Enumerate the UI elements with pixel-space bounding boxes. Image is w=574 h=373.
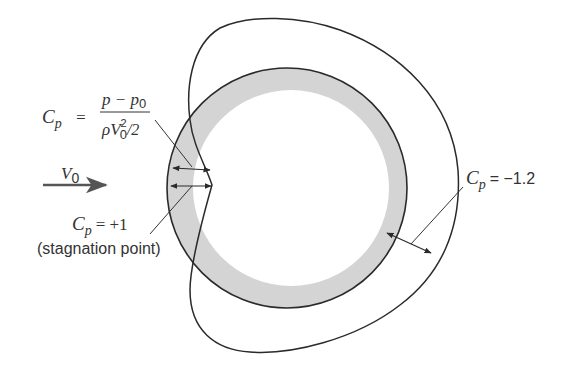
stagnation-value: = +1: [96, 215, 128, 234]
svg-text:V0: V0: [61, 164, 79, 186]
stagnation-label: Cp= +1 (stagnation point): [37, 213, 161, 257]
stagnation-lhs: C: [72, 213, 85, 234]
formula-denominator-tail: /2: [126, 121, 139, 138]
suction-value: = −1.2: [490, 170, 535, 187]
cp-formula: Cp = p − p0 ρV20/2: [42, 90, 150, 142]
stagnation-lhs-sub: p: [84, 223, 92, 238]
formula-denominator-sub: 0: [120, 127, 127, 142]
formula-numerator-sub: 0: [139, 96, 146, 111]
svg-text:ρV20/2: ρV20/2: [101, 117, 139, 142]
svg-text:Cp= −1.2: Cp= −1.2: [466, 167, 535, 192]
suction-lhs: C: [466, 167, 479, 188]
freestream-subscript: 0: [71, 170, 79, 186]
freestream-velocity: V0: [43, 164, 106, 186]
suction-label: Cp= −1.2: [466, 167, 535, 192]
svg-text:p − p0: p − p0: [101, 90, 146, 111]
svg-text:Cp= +1: Cp= +1: [72, 213, 128, 238]
cylinder-surface: [193, 90, 389, 286]
svg-text:Cp: Cp: [42, 106, 62, 131]
formula-lhs-sub: p: [54, 116, 62, 131]
cp-distribution-diagram: V0 Cp = p − p0 ρV20/2 Cp= +1 (stagnation…: [0, 0, 574, 373]
suction-lhs-sub: p: [478, 177, 486, 192]
formula-numerator: p − p: [101, 90, 139, 109]
stagnation-note: (stagnation point): [37, 240, 161, 257]
cylinder: [167, 68, 407, 308]
formula-equals: =: [75, 108, 86, 127]
formula-lhs: C: [42, 106, 55, 127]
